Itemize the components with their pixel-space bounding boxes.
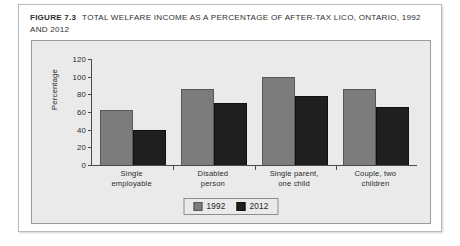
bar-2012[interactable] [214,103,247,165]
y-tick-label: 40 [60,125,86,134]
y-tick-label: 0 [60,161,86,170]
plot-area [91,59,417,166]
y-tick-mark [88,147,92,148]
legend-entry-1992[interactable]: 1992 [193,202,225,211]
bar-1992[interactable] [100,110,133,165]
y-tick-mark [88,112,92,113]
bar-2012[interactable] [376,107,409,165]
bar-group [181,59,247,165]
x-axis-category-labels: SingleemployableDisabledpersonSingle par… [91,169,416,188]
y-tick-label: 80 [60,90,86,99]
y-tick-mark [88,130,92,131]
bar-group [343,59,409,165]
bar-1992[interactable] [181,89,214,165]
bar-2012[interactable] [133,130,166,165]
legend-label-2012: 2012 [250,202,269,211]
x-category-label-line: Single parent, [254,169,334,179]
x-category-label: Singleemployable [92,169,172,188]
chart-panel: Percentage 020406080100120 Singleemploya… [31,40,431,224]
y-tick-mark [88,77,92,78]
legend-swatch-1992 [193,202,202,211]
figure-card: FIGURE 7.3TOTAL WELFARE INCOME AS A PERC… [18,4,442,232]
figure-number: FIGURE 7.3 [30,13,76,22]
figure-title-text: TOTAL WELFARE INCOME AS A PERCENTAGE OF … [30,13,421,34]
y-tick-label: 20 [60,143,86,152]
x-category-label: Single parent,one child [254,169,334,188]
y-tick-mark [88,94,92,95]
y-tick-label: 60 [60,108,86,117]
x-category-label-line: one child [254,179,334,189]
y-tick-label: 100 [60,72,86,81]
y-axis-title: Percentage [50,54,59,126]
bar-1992[interactable] [343,89,376,165]
bar-2012[interactable] [295,96,328,165]
y-tick-label: 120 [60,55,86,64]
chart-legend: 19922012 [183,198,278,215]
legend-entry-2012[interactable]: 2012 [237,202,269,211]
x-category-label-line: person [173,179,253,189]
bar-group [100,59,166,165]
figure-caption: FIGURE 7.3TOTAL WELFARE INCOME AS A PERC… [30,12,432,35]
bar-groups [92,59,417,165]
legend-label-1992: 1992 [206,202,225,211]
bar-1992[interactable] [262,77,295,165]
x-category-label: Couple, twochildren [335,169,415,188]
bar-group [262,59,328,165]
x-category-label-line: children [335,179,415,189]
x-category-label: Disabledperson [173,169,253,188]
x-category-label-line: Single [92,169,172,179]
legend-swatch-2012 [237,202,246,211]
x-category-label-line: employable [92,179,172,189]
x-category-label-line: Couple, two [335,169,415,179]
x-category-label-line: Disabled [173,169,253,179]
y-axis-tick-labels: 020406080100120 [60,59,86,165]
y-tick-mark [88,59,92,60]
y-tick-mark [88,165,92,166]
